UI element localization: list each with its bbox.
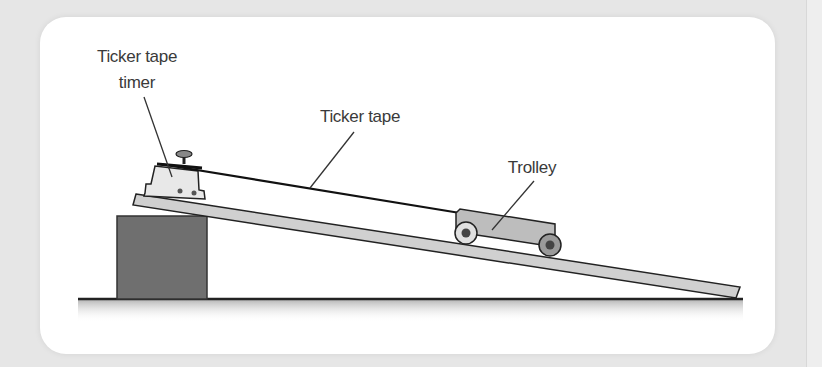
timer-label-line1: Ticker tape (97, 47, 177, 66)
floor (78, 299, 743, 322)
support-block (117, 216, 207, 299)
ticker-tape-timer (144, 151, 205, 200)
tape-label: Ticker tape (320, 107, 400, 126)
tape-leader-line (310, 132, 354, 188)
timer-label-line2: timer (119, 73, 156, 92)
trolley-label: Trolley (508, 158, 557, 177)
